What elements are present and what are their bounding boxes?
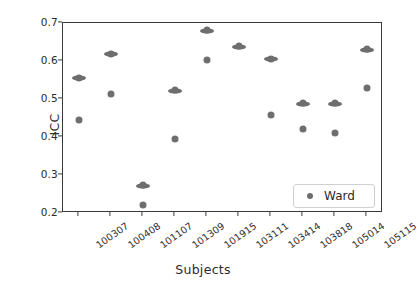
y-axis-tick-label: 0.6 xyxy=(0,54,58,66)
data-point xyxy=(76,116,83,123)
data-point xyxy=(168,88,182,93)
data-point xyxy=(200,28,214,33)
y-axis-tick-label: 0.2 xyxy=(0,206,58,218)
x-axis-tick-label: 105115 xyxy=(382,220,419,250)
x-axis-tick-mark xyxy=(269,212,270,216)
chart-legend[interactable]: Ward xyxy=(293,184,375,208)
y-axis-tick-label: 0.7 xyxy=(0,16,58,28)
data-point xyxy=(296,101,310,106)
data-point xyxy=(140,201,147,208)
x-axis-tick-label: 103111 xyxy=(254,220,291,250)
x-axis-tick-mark xyxy=(205,212,206,216)
data-point xyxy=(72,76,86,81)
data-point xyxy=(136,183,150,188)
data-point xyxy=(108,91,115,98)
x-axis-tick-label: 101309 xyxy=(190,220,227,250)
x-axis-label: Subjects xyxy=(0,262,406,277)
x-axis-tick-mark xyxy=(237,212,238,216)
data-point xyxy=(232,44,246,49)
x-axis-tick-label: 103818 xyxy=(318,220,355,250)
data-point xyxy=(172,135,179,142)
x-axis-tick-mark xyxy=(77,212,78,216)
x-axis-tick-mark xyxy=(365,212,366,216)
x-axis-tick-mark xyxy=(141,212,142,216)
data-point xyxy=(300,126,307,133)
x-axis-tick-label: 101107 xyxy=(158,220,195,250)
y-axis-tick-label: 0.5 xyxy=(0,92,58,104)
x-axis-tick-mark xyxy=(173,212,174,216)
data-point xyxy=(364,85,371,92)
data-point xyxy=(104,52,118,57)
x-axis-tick-label: 101915 xyxy=(222,220,259,250)
data-point xyxy=(332,130,339,137)
y-axis-tick-label: 0.3 xyxy=(0,168,58,180)
data-point xyxy=(328,101,342,106)
x-axis-tick-mark xyxy=(333,212,334,216)
y-axis-tick-label: 0.4 xyxy=(0,130,58,142)
x-axis-tick-mark xyxy=(301,212,302,216)
x-axis-tick-label: 100307 xyxy=(94,220,131,250)
data-point xyxy=(204,56,211,63)
x-axis-tick-mark xyxy=(109,212,110,216)
data-point xyxy=(268,112,275,119)
x-axis-tick-label: 105014 xyxy=(350,220,387,250)
x-axis-tick-label: 103414 xyxy=(286,220,323,250)
data-point xyxy=(360,47,374,52)
x-axis-tick-label: 100408 xyxy=(126,220,163,250)
legend-label: Ward xyxy=(313,189,374,203)
y-axis-label: ICC xyxy=(47,65,62,185)
data-point xyxy=(264,57,278,62)
